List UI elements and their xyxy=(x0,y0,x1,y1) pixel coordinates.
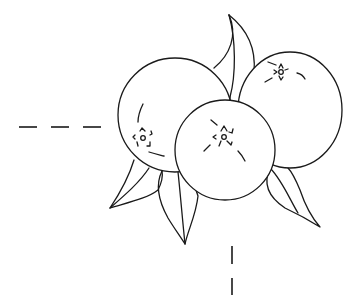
bottom-right-leaf xyxy=(267,168,320,227)
oranges-illustration xyxy=(0,0,357,295)
